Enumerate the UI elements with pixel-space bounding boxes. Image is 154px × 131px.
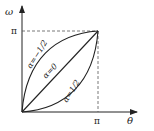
y-axis-label: ω <box>5 6 13 17</box>
omega-theta-diagram: ω θ π π α=−1/2 α=0 α=1/2 <box>0 0 154 131</box>
x-tick-pi: π <box>94 116 100 126</box>
label-alpha-zero: α=0 <box>41 62 59 81</box>
x-axis-label: θ <box>127 115 133 126</box>
label-alpha-neg-half: α=−1/2 <box>25 38 49 70</box>
label-alpha-pos-half: α=1/2 <box>61 78 82 104</box>
curve-alpha-zero <box>22 31 98 112</box>
diagram-canvas: ω θ π π α=−1/2 α=0 α=1/2 <box>0 0 154 131</box>
y-tick-pi: π <box>11 26 17 36</box>
